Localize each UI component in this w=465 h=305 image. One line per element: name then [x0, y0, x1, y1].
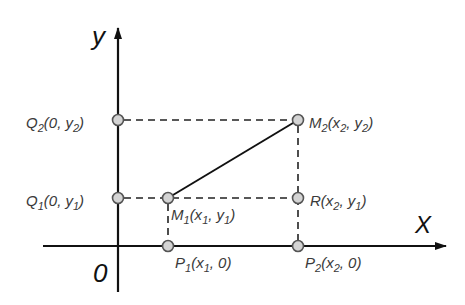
- point-p1: [163, 241, 174, 252]
- origin-label: 0: [93, 258, 108, 288]
- point-r: [293, 193, 304, 204]
- y-axis-label: y: [90, 21, 107, 51]
- label-p2: P2(x2, 0): [305, 254, 361, 274]
- label-m2: M2(x2, y2): [309, 114, 373, 134]
- label-m1: M1(x1, y1): [171, 206, 235, 226]
- label-p1: P1(x1, 0): [175, 254, 231, 274]
- label-r: R(x2, y1): [310, 192, 366, 212]
- label-q2: Q2(0, y2): [26, 114, 84, 134]
- point-m2: [293, 115, 304, 126]
- coordinate-diagram: y X 0 Q2(0, y2) Q1(0, y1) M1(x1, y1) M2(…: [0, 0, 465, 305]
- x-axis-label: X: [414, 211, 432, 238]
- segment-m1-m2: [168, 120, 298, 198]
- point-q1: [113, 193, 124, 204]
- point-q2: [113, 115, 124, 126]
- point-p2: [293, 241, 304, 252]
- point-m1: [163, 193, 174, 204]
- label-q1: Q1(0, y1): [26, 192, 84, 212]
